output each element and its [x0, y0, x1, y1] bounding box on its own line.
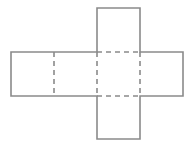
face-row-4	[140, 52, 183, 96]
face-center	[97, 52, 140, 96]
fold-lines	[54, 52, 140, 96]
face-bottom	[97, 96, 140, 139]
face-row-1	[11, 52, 54, 96]
face-top	[97, 8, 140, 52]
face-row-2	[54, 52, 97, 96]
cube-net-diagram	[0, 0, 195, 147]
